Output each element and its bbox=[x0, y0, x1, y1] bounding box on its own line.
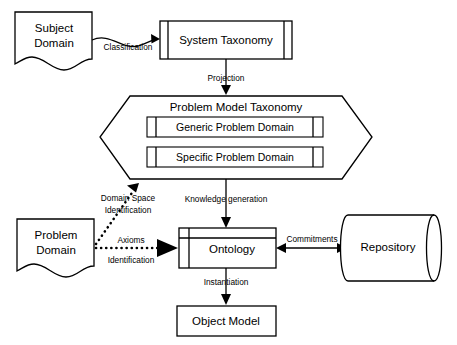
domain-space-identification-label-line2: Identification bbox=[105, 205, 152, 215]
classification-label: Classification bbox=[104, 42, 153, 52]
axioms-identification-label-line1: Axioms bbox=[117, 235, 144, 245]
diagram-svg: Subject Domain System Taxonomy Classific… bbox=[0, 0, 457, 345]
commitments-arrowhead-left bbox=[276, 243, 286, 253]
generic-problem-domain-label: Generic Problem Domain bbox=[176, 121, 294, 133]
instantiation-label: Instantiation bbox=[204, 277, 249, 287]
projection-arrowhead bbox=[221, 85, 231, 95]
node-repository[interactable]: Repository bbox=[341, 215, 442, 281]
problem-domain-label-line2: Domain bbox=[36, 244, 76, 256]
repository-label: Repository bbox=[361, 241, 416, 253]
edge-commitments: Commitments bbox=[276, 234, 347, 253]
node-ontology[interactable]: Ontology bbox=[179, 228, 276, 268]
system-taxonomy-label: System Taxonomy bbox=[179, 34, 273, 46]
edge-classification: Classification bbox=[92, 34, 160, 52]
domain-space-identification-label-line1: Domain Space bbox=[101, 193, 156, 203]
subject-domain-label-line2: Domain bbox=[34, 37, 74, 49]
knowledge-generation-label: Knowledge generation bbox=[185, 194, 268, 204]
node-subject-domain[interactable]: Subject Domain bbox=[15, 12, 92, 70]
problem-model-taxonomy-label: Problem Model Taxonomy bbox=[170, 101, 303, 113]
edge-knowledge-generation: Knowledge generation bbox=[185, 179, 268, 228]
object-model-label: Object Model bbox=[192, 315, 260, 327]
diagram-canvas: Subject Domain System Taxonomy Classific… bbox=[0, 0, 457, 345]
node-object-model[interactable]: Object Model bbox=[177, 306, 276, 336]
node-problem-model-taxonomy[interactable]: Problem Model Taxonomy Generic Problem D… bbox=[100, 96, 372, 179]
edge-projection: Projection bbox=[208, 59, 245, 95]
node-generic-problem-domain[interactable]: Generic Problem Domain bbox=[147, 117, 323, 137]
node-specific-problem-domain[interactable]: Specific Problem Domain bbox=[147, 147, 323, 167]
knowledge-generation-arrowhead bbox=[221, 217, 231, 228]
domain-space-identification-arrowhead bbox=[127, 183, 139, 193]
commitments-label: Commitments bbox=[286, 234, 337, 244]
node-system-taxonomy[interactable]: System Taxonomy bbox=[160, 21, 292, 59]
subject-domain-label-line1: Subject bbox=[35, 22, 74, 34]
edge-axioms-identification: Axioms Identification bbox=[96, 235, 178, 265]
instantiation-arrowhead bbox=[221, 294, 231, 305]
specific-problem-domain-label: Specific Problem Domain bbox=[176, 151, 294, 163]
problem-domain-label-line1: Problem bbox=[35, 229, 78, 241]
axioms-identification-arrowhead bbox=[157, 239, 178, 257]
edge-instantiation: Instantiation bbox=[204, 268, 249, 305]
projection-label: Projection bbox=[208, 73, 245, 83]
node-problem-domain[interactable]: Problem Domain bbox=[17, 219, 94, 277]
ontology-label: Ontology bbox=[209, 243, 255, 255]
axioms-identification-label-line2: Identification bbox=[108, 255, 155, 265]
